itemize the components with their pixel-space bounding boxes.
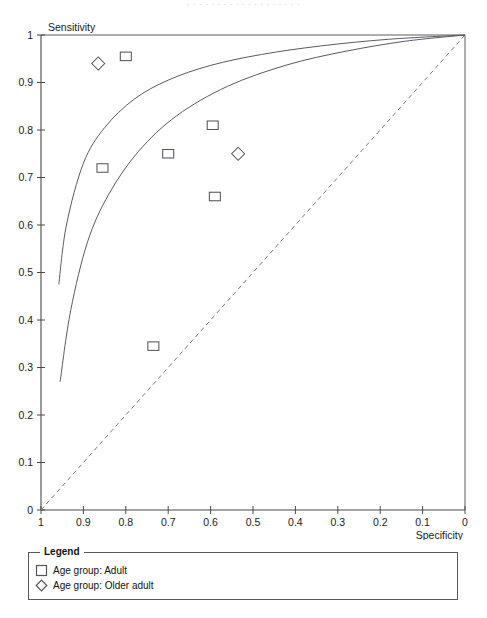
data-point-square[interactable] xyxy=(163,150,174,159)
study-markers xyxy=(92,52,245,350)
legend-title: Legend xyxy=(40,546,84,557)
y-tick-label: 0 xyxy=(27,504,33,516)
data-point-square[interactable] xyxy=(97,164,108,173)
y-tick-label: 0.7 xyxy=(18,171,33,183)
data-point-square[interactable] xyxy=(148,342,159,351)
data-point-square[interactable] xyxy=(209,192,220,201)
plot-frame xyxy=(41,35,465,510)
sroc-plot: 10.90.80.70.60.50.40.30.20.1010.90.80.70… xyxy=(0,12,487,540)
x-tick-label: 0.2 xyxy=(373,516,388,528)
y-axis-title: Sensitivity xyxy=(48,21,96,33)
data-point-diamond[interactable] xyxy=(232,147,245,160)
x-tick-label: 0 xyxy=(462,516,468,528)
x-axis-title: Specificity xyxy=(416,529,464,540)
x-tick-label: 0.9 xyxy=(76,516,91,528)
legend-item-adult[interactable]: Age group: Adult xyxy=(35,564,127,577)
roc-curves xyxy=(41,35,465,510)
x-tick-label: 0.5 xyxy=(246,516,261,528)
y-tick-label: 1 xyxy=(27,29,33,41)
sroc-curve xyxy=(60,35,465,382)
x-tick-label: 0.4 xyxy=(288,516,303,528)
sroc-chart-page: · · · · · · · · · · · · · · · · · · · 10… xyxy=(0,0,487,618)
chart-canvas: 10.90.80.70.60.50.40.30.20.1010.90.80.70… xyxy=(0,12,487,540)
y-tick-label: 0.3 xyxy=(18,361,33,373)
x-tick-label: 0.1 xyxy=(415,516,430,528)
x-tick-label: 1 xyxy=(38,516,44,528)
diamond-marker-icon xyxy=(35,579,48,592)
legend: Legend Age group: Adult Age group: Older… xyxy=(28,552,458,600)
legend-item-older-adult[interactable]: Age group: Older adult xyxy=(35,579,154,592)
x-tick-label: 0.7 xyxy=(161,516,176,528)
data-point-diamond[interactable] xyxy=(92,57,105,70)
square-marker-icon xyxy=(35,564,48,577)
x-tick-label: 0.6 xyxy=(203,516,218,528)
x-axis-ticks: 10.90.80.70.60.50.40.30.20.10 xyxy=(38,506,468,528)
y-tick-label: 0.9 xyxy=(18,76,33,88)
data-point-square[interactable] xyxy=(207,121,218,130)
legend-item-label: Age group: Older adult xyxy=(53,580,154,592)
y-tick-label: 0.6 xyxy=(18,219,33,231)
y-tick-label: 0.2 xyxy=(18,409,33,421)
y-tick-label: 0.4 xyxy=(18,314,33,326)
x-tick-label: 0.8 xyxy=(118,516,133,528)
y-tick-label: 0.5 xyxy=(18,266,33,278)
y-tick-label: 0.8 xyxy=(18,124,33,136)
legend-item-label: Age group: Adult xyxy=(53,565,127,577)
x-tick-label: 0.3 xyxy=(330,516,345,528)
y-tick-label: 0.1 xyxy=(18,456,33,468)
reference-diagonal-line xyxy=(41,35,465,510)
data-point-square[interactable] xyxy=(120,52,131,61)
